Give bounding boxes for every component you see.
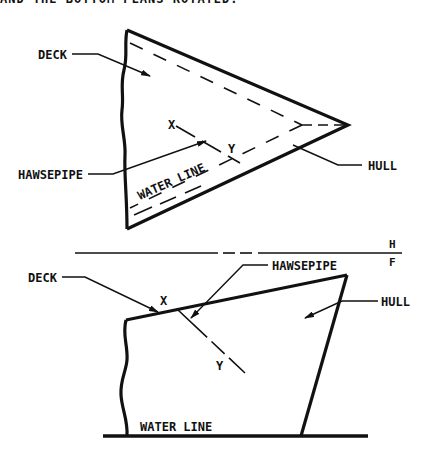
front-waterline-label: WATER LINE xyxy=(140,420,212,434)
top-deck-dashed-upper xyxy=(130,43,302,125)
top-waterline-dash-1 xyxy=(134,207,152,215)
fold-label-h: H xyxy=(389,238,396,251)
front-hawsepipe-leader xyxy=(191,265,268,318)
top-break-line xyxy=(122,30,127,229)
top-hull-outline xyxy=(127,30,348,229)
front-deck-label: DECK xyxy=(28,271,58,285)
front-hawsepipe-label: HAWSEPIPE xyxy=(272,259,337,273)
top-x-label: X xyxy=(168,118,176,132)
front-hawsepipe-axis xyxy=(178,310,245,373)
front-hull-leader xyxy=(305,301,378,318)
top-view: DECK X Y HAWSEPIPE WATER LINE HULL xyxy=(18,30,397,229)
top-waterline-dash-3 xyxy=(185,186,201,193)
fold-label-f: F xyxy=(389,256,396,269)
front-hull-label: HULL xyxy=(381,295,410,309)
top-y-label: Y xyxy=(228,142,236,156)
top-hull-leader xyxy=(293,145,362,165)
hawsepipe-drawing: DECK X Y HAWSEPIPE WATER LINE HULL H F xyxy=(0,0,426,456)
front-x-label: X xyxy=(160,294,168,308)
top-hull-label: HULL xyxy=(368,159,397,173)
front-break-line xyxy=(121,320,127,436)
top-waterline-dash-2 xyxy=(160,197,176,204)
top-deck-label: DECK xyxy=(38,48,68,62)
front-y-label: Y xyxy=(216,359,224,373)
front-hull-side xyxy=(301,275,347,436)
top-hawsepipe-label: HAWSEPIPE xyxy=(18,168,83,182)
front-view: DECK X Y HAWSEPIPE HULL WATER LINE xyxy=(28,259,410,436)
top-deck-leader xyxy=(72,54,150,76)
front-deck-leader xyxy=(62,277,158,312)
fold-line: H F xyxy=(75,238,402,269)
